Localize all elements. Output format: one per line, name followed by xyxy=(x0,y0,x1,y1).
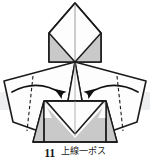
step-number: 11 xyxy=(44,147,54,159)
center-convergence-point xyxy=(74,61,76,63)
body-panel xyxy=(33,101,117,142)
origami-diagram xyxy=(0,0,150,161)
origami-figure: 11 上線一ポス xyxy=(0,0,150,161)
caption: 11 上線一ポス xyxy=(0,147,150,161)
caption-text: 上線一ポス xyxy=(61,147,106,156)
